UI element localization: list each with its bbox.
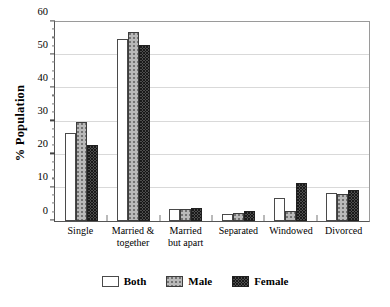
legend-item: Both xyxy=(102,276,147,287)
bar-group xyxy=(55,22,107,221)
bar-male xyxy=(180,209,191,221)
x-axis-tick-label: Separated xyxy=(212,225,265,248)
x-axis-labels: SingleMarried & togetherMarried but apar… xyxy=(54,225,370,248)
bar-male xyxy=(285,211,296,221)
bar-female xyxy=(296,183,307,221)
legend-swatch-both xyxy=(102,276,119,287)
legend-swatch-male xyxy=(166,276,183,287)
bar-group xyxy=(160,22,212,221)
legend-item: Male xyxy=(166,276,212,287)
bar-both xyxy=(65,133,76,221)
x-axis-tick-label: Single xyxy=(54,225,107,248)
bar-female xyxy=(348,190,359,222)
bar-both xyxy=(169,209,180,221)
x-axis-tick-label: Windowed xyxy=(265,225,318,248)
bar-male xyxy=(128,32,139,221)
y-axis-tick-label: 50 xyxy=(21,39,55,50)
bar-groups xyxy=(55,22,369,221)
bar-both xyxy=(326,193,337,221)
bar-male xyxy=(337,194,348,221)
y-axis-tick-label: 40 xyxy=(21,73,55,84)
y-axis-tick-label: 60 xyxy=(21,6,55,17)
legend-label: Both xyxy=(124,276,147,287)
y-axis-tick-label: 30 xyxy=(21,106,55,117)
bar-both xyxy=(117,39,128,221)
bar-both xyxy=(222,214,233,221)
bar-female xyxy=(244,211,255,221)
x-axis-tick-label: Married but apart xyxy=(159,225,212,248)
y-axis-tick-label: 20 xyxy=(21,139,55,150)
bar-group xyxy=(317,22,369,221)
legend-label: Female xyxy=(254,276,288,287)
x-axis-tick-label: Married & together xyxy=(107,225,160,248)
y-axis-tick-label: 10 xyxy=(21,172,55,183)
bar-male xyxy=(76,122,87,222)
bar-male xyxy=(233,213,244,221)
x-axis-tick-label: Divorced xyxy=(317,225,370,248)
bar-chart: % Population 0102030405060 SingleMarried… xyxy=(0,0,390,307)
plot-area: 0102030405060 xyxy=(54,21,370,222)
legend-label: Male xyxy=(188,276,212,287)
legend-swatch-female xyxy=(232,276,249,287)
bar-group xyxy=(212,22,264,221)
y-axis-tick-label: 0 xyxy=(21,205,55,216)
bar-female xyxy=(191,208,202,221)
bar-female xyxy=(87,145,98,221)
chart-legend: BothMaleFemale xyxy=(0,276,390,287)
legend-item: Female xyxy=(232,276,288,287)
bar-group xyxy=(107,22,159,221)
bar-female xyxy=(139,45,150,221)
bar-both xyxy=(274,198,285,221)
bar-group xyxy=(264,22,316,221)
